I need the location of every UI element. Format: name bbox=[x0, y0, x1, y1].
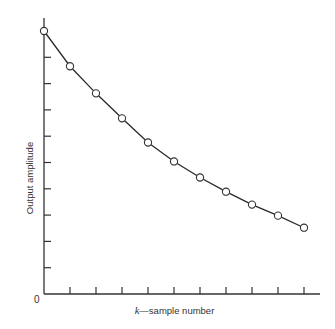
data-point-marker bbox=[92, 90, 99, 97]
data-point-marker bbox=[40, 27, 47, 34]
data-point-marker bbox=[248, 201, 255, 208]
data-point-marker bbox=[144, 139, 151, 146]
axis-ticks bbox=[44, 57, 304, 294]
data-point-marker bbox=[196, 174, 203, 181]
y-axis-label: Output amplitude bbox=[24, 142, 35, 214]
data-point-markers bbox=[40, 27, 307, 231]
origin-tick-label: 0 bbox=[34, 294, 40, 305]
output-amplitude-line bbox=[44, 31, 304, 228]
data-point-marker bbox=[66, 63, 73, 70]
x-axis-label-text: —sample number bbox=[139, 305, 214, 316]
data-point-marker bbox=[222, 188, 229, 195]
data-point-marker bbox=[300, 224, 307, 231]
data-point-marker bbox=[274, 212, 281, 219]
chart-plot-area bbox=[0, 0, 335, 329]
x-axis-label: k—sample number bbox=[0, 305, 335, 316]
data-point-marker bbox=[118, 115, 125, 122]
data-point-marker bbox=[170, 158, 177, 165]
